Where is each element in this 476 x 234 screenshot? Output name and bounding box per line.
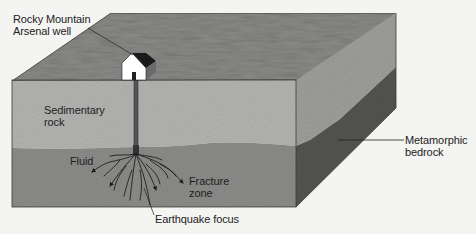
label-fluid: Fluid [70,155,93,167]
label-earthquake-focus: Earthquake focus [155,213,239,225]
label-metamorphic-bedrock: Metamorphic bedrock [405,134,467,158]
label-sedimentary-rock: Sedimentary rock [44,104,105,128]
well-pipe [134,80,138,148]
label-fracture-zone: Fracture zone [189,175,229,199]
front-face-metamorphic [12,143,296,207]
label-well: Rocky Mountain Arsenal well [13,13,90,37]
